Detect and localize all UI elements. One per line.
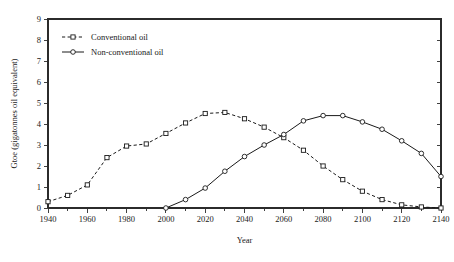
data-point-marker — [301, 119, 306, 124]
data-point-marker — [262, 143, 267, 148]
x-tick-label: 2020 — [197, 214, 214, 224]
y-axis-title: Gtoe (gigatonnes oil equivalent) — [9, 58, 19, 168]
legend-marker-circle — [71, 50, 76, 55]
x-tick-label: 2060 — [275, 214, 292, 224]
data-point-marker — [66, 193, 70, 197]
data-point-marker — [242, 154, 247, 159]
series-2 — [164, 113, 444, 210]
data-point-marker — [439, 206, 443, 210]
y-tick-label: 7 — [37, 56, 41, 66]
data-point-marker — [183, 197, 188, 202]
data-point-marker — [321, 113, 326, 118]
chart-legend: Conventional oilNon-conventional oil — [62, 32, 164, 57]
line-chart: 1940196019802000202020402060208021002120… — [0, 0, 454, 262]
data-point-marker — [341, 178, 345, 182]
data-series-group — [46, 110, 443, 210]
x-tick-label: 2100 — [354, 214, 371, 224]
legend-marker-square — [71, 35, 75, 39]
data-point-marker — [321, 164, 325, 168]
data-point-marker — [262, 125, 266, 129]
y-tick-label: 0 — [37, 203, 41, 213]
x-tick-label: 1940 — [40, 214, 57, 224]
data-point-marker — [380, 127, 385, 132]
legend-entry-2[interactable]: Non-conventional oil — [62, 47, 164, 57]
y-tick-label: 1 — [37, 182, 41, 192]
legend-label: Non-conventional oil — [91, 47, 164, 57]
data-point-marker — [46, 200, 50, 204]
data-point-marker — [419, 205, 423, 209]
legend-label: Conventional oil — [91, 32, 149, 42]
x-tick-label: 2040 — [236, 214, 253, 224]
y-tick-label: 8 — [37, 35, 41, 45]
y-tick-label: 3 — [37, 140, 41, 150]
data-point-marker — [164, 206, 169, 211]
y-tick-label: 4 — [37, 119, 42, 129]
data-point-marker — [282, 132, 287, 137]
data-point-marker — [301, 148, 305, 152]
data-point-marker — [203, 186, 208, 191]
data-point-marker — [85, 183, 89, 187]
data-point-marker — [203, 111, 207, 115]
data-point-marker — [360, 189, 364, 193]
data-point-marker — [105, 156, 109, 160]
y-tick-label: 6 — [37, 77, 41, 87]
y-tick-label: 9 — [37, 14, 41, 24]
x-tick-label: 2140 — [433, 214, 450, 224]
data-point-marker — [399, 139, 404, 144]
y-axis-ticks: 0123456789 — [37, 14, 441, 213]
data-point-marker — [125, 144, 129, 148]
x-tick-label: 2000 — [157, 214, 174, 224]
data-point-marker — [340, 113, 345, 118]
data-point-marker — [439, 174, 444, 179]
y-tick-label: 2 — [37, 161, 41, 171]
data-point-marker — [360, 120, 365, 125]
x-tick-label: 2120 — [393, 214, 410, 224]
x-tick-label: 1980 — [118, 214, 135, 224]
data-point-marker — [223, 169, 228, 174]
x-axis-title: Year — [237, 235, 253, 245]
series-line — [166, 116, 441, 208]
data-point-marker — [242, 117, 246, 121]
data-point-marker — [400, 203, 404, 207]
legend-entry-1[interactable]: Conventional oil — [62, 32, 149, 42]
x-tick-label: 1960 — [79, 214, 96, 224]
series-1 — [46, 110, 443, 210]
data-point-marker — [223, 110, 227, 114]
y-tick-label: 5 — [37, 98, 41, 108]
x-axis-ticks: 1940196019802000202020402060208021002120… — [40, 208, 450, 224]
data-point-marker — [144, 142, 148, 146]
x-tick-label: 2080 — [315, 214, 332, 224]
data-point-marker — [164, 131, 168, 135]
data-point-marker — [183, 121, 187, 125]
data-point-marker — [419, 151, 424, 156]
chart-container: 1940196019802000202020402060208021002120… — [0, 0, 454, 262]
data-point-marker — [380, 198, 384, 202]
